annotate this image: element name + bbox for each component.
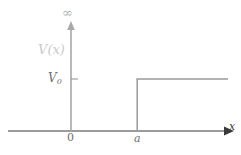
x-axis-label: x [229, 121, 235, 132]
step-position-label: a [134, 133, 141, 144]
v0-label-symbol: V [48, 71, 57, 85]
y-axis-arrowhead [67, 21, 75, 30]
potential-function-label: V(x) [38, 43, 65, 56]
origin-label: 0 [67, 132, 74, 143]
figure-canvas [0, 0, 241, 155]
infinity-label: ∞ [62, 6, 73, 19]
v0-label-subscript: 0 [57, 77, 62, 86]
potential-step-figure: ∞ V(x) V0 0 a x [0, 0, 241, 155]
v0-label: V0 [48, 72, 62, 86]
